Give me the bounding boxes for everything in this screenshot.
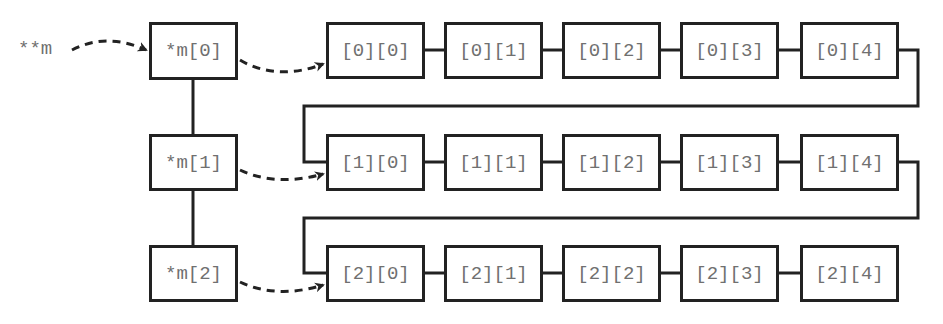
cell-1-1: [1][1] bbox=[444, 134, 543, 191]
cell-1-4: [1][4] bbox=[800, 134, 899, 191]
cell-0-3: [0][3] bbox=[680, 22, 779, 79]
cell-0-0: [0][0] bbox=[326, 22, 425, 79]
cell-2-2: [2][2] bbox=[562, 245, 661, 302]
dashed-arrow-m2-to-row2 bbox=[240, 282, 323, 291]
row-pointer-1: *m[1] bbox=[149, 134, 238, 191]
cell-2-0: [2][0] bbox=[326, 245, 425, 302]
cell-2-4: [2][4] bbox=[800, 245, 899, 302]
cell-2-1: [2][1] bbox=[444, 245, 543, 302]
cell-0-2: [0][2] bbox=[562, 22, 661, 79]
dashed-arrow-m1-to-row1 bbox=[240, 170, 323, 180]
cell-1-2: [1][2] bbox=[562, 134, 661, 191]
cell-0-1: [0][1] bbox=[444, 22, 543, 79]
cell-0-4: [0][4] bbox=[800, 22, 899, 79]
dashed-arrow-root-to-m0 bbox=[72, 41, 146, 50]
row-pointer-2: *m[2] bbox=[149, 245, 238, 302]
cell-1-0: [1][0] bbox=[326, 134, 425, 191]
root-pointer-label: **m bbox=[18, 38, 52, 60]
row-pointer-0: *m[0] bbox=[149, 22, 238, 80]
cell-2-3: [2][3] bbox=[680, 245, 779, 302]
cell-1-3: [1][3] bbox=[680, 134, 779, 191]
dashed-arrow-m0-to-row0 bbox=[240, 60, 323, 72]
